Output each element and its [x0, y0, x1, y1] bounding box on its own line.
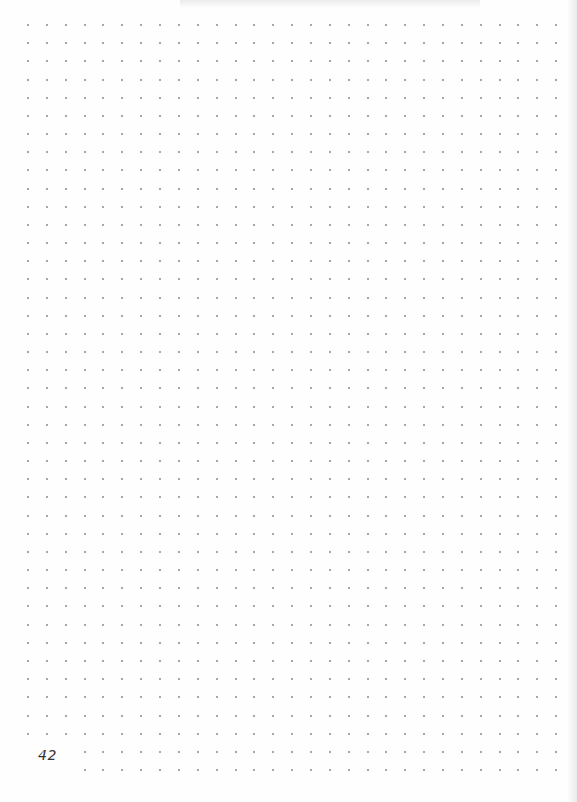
grid-dot: [216, 387, 218, 389]
grid-dot: [178, 533, 180, 535]
grid-dot: [404, 315, 406, 317]
grid-dot: [517, 751, 519, 753]
grid-dot: [121, 715, 123, 717]
grid-dot: [216, 605, 218, 607]
grid-dot: [140, 115, 142, 117]
grid-dot: [423, 351, 425, 353]
grid-dot: [159, 60, 161, 62]
grid-dot: [216, 224, 218, 226]
grid-dot: [46, 97, 48, 99]
grid-dot: [84, 115, 86, 117]
grid-dot: [140, 333, 142, 335]
grid-dot: [461, 733, 463, 735]
grid-dot: [499, 369, 501, 371]
grid-dot: [178, 769, 180, 771]
grid-dot: [235, 678, 237, 680]
grid-dot: [84, 188, 86, 190]
grid-dot: [329, 769, 331, 771]
grid-dot: [385, 406, 387, 408]
grid-dot: [404, 424, 406, 426]
grid-dot: [272, 315, 274, 317]
grid-dot: [121, 551, 123, 553]
grid-dot: [480, 442, 482, 444]
grid-dot: [84, 278, 86, 280]
grid-dot: [461, 224, 463, 226]
grid-dot: [272, 551, 274, 553]
grid-dot: [310, 496, 312, 498]
grid-dot: [140, 751, 142, 753]
grid-dot: [536, 387, 538, 389]
grid-dot: [253, 496, 255, 498]
grid-dot: [178, 369, 180, 371]
grid-dot: [272, 769, 274, 771]
grid-dot: [27, 569, 29, 571]
grid-dot: [197, 624, 199, 626]
grid-dot: [159, 533, 161, 535]
grid-dot: [329, 79, 331, 81]
grid-dot: [404, 460, 406, 462]
grid-dot: [84, 496, 86, 498]
grid-dot: [121, 42, 123, 44]
grid-dot: [84, 678, 86, 680]
grid-dot: [348, 624, 350, 626]
grid-dot: [385, 678, 387, 680]
grid-dot: [291, 151, 293, 153]
grid-dot: [555, 333, 557, 335]
grid-dot: [159, 587, 161, 589]
grid-dot: [65, 79, 67, 81]
grid-dot: [480, 351, 482, 353]
grid-dot: [423, 515, 425, 517]
grid-dot: [404, 151, 406, 153]
grid-dot: [555, 133, 557, 135]
grid-dot: [329, 751, 331, 753]
grid-dot: [272, 605, 274, 607]
grid-dot: [442, 278, 444, 280]
grid-dot: [348, 60, 350, 62]
grid-dot: [253, 442, 255, 444]
grid-dot: [367, 242, 369, 244]
grid-dot: [46, 406, 48, 408]
grid-dot: [291, 260, 293, 262]
grid-dot: [216, 696, 218, 698]
grid-dot: [385, 569, 387, 571]
grid-dot: [517, 587, 519, 589]
grid-dot: [159, 642, 161, 644]
grid-dot: [291, 188, 293, 190]
grid-dot: [159, 169, 161, 171]
grid-dot: [197, 551, 199, 553]
grid-dot: [197, 242, 199, 244]
grid-dot: [385, 587, 387, 589]
grid-dot: [197, 678, 199, 680]
grid-dot: [216, 624, 218, 626]
grid-dot: [102, 515, 104, 517]
grid-dot: [178, 496, 180, 498]
grid-dot: [84, 60, 86, 62]
grid-dot: [178, 442, 180, 444]
grid-dot: [555, 733, 557, 735]
grid-dot: [84, 369, 86, 371]
grid-dot: [121, 642, 123, 644]
grid-dot: [102, 260, 104, 262]
grid-dot: [310, 587, 312, 589]
grid-dot: [442, 424, 444, 426]
grid-dot: [404, 551, 406, 553]
grid-dot: [140, 678, 142, 680]
grid-dot: [46, 278, 48, 280]
grid-dot: [197, 387, 199, 389]
grid-dot: [121, 624, 123, 626]
grid-dot: [499, 188, 501, 190]
grid-dot: [329, 278, 331, 280]
grid-dot: [291, 696, 293, 698]
grid-dot: [272, 660, 274, 662]
grid-dot: [84, 224, 86, 226]
grid-dot: [348, 169, 350, 171]
grid-dot: [367, 406, 369, 408]
grid-dot: [499, 642, 501, 644]
grid-dot: [272, 369, 274, 371]
grid-dot: [102, 133, 104, 135]
grid-dot: [404, 260, 406, 262]
grid-dot: [442, 24, 444, 26]
grid-dot: [480, 188, 482, 190]
grid-dot: [159, 424, 161, 426]
grid-dot: [404, 733, 406, 735]
